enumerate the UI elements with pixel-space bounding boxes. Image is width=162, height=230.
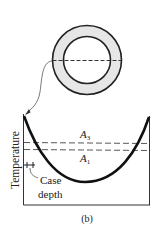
a1-line bbox=[24, 150, 149, 151]
figure-caption: (b) bbox=[81, 213, 93, 225]
case-depth-marker bbox=[24, 162, 38, 178]
leader-arrow bbox=[25, 61, 52, 115]
a3-label: A3 bbox=[79, 128, 91, 142]
a3-line bbox=[24, 143, 149, 144]
ring-cross-section bbox=[53, 26, 122, 95]
temperature-curve bbox=[24, 116, 149, 182]
diagram: A3 A1 Temperature Case depth (b) bbox=[0, 0, 162, 230]
a1-label: A1 bbox=[79, 152, 91, 166]
case-depth-label-line1: Case bbox=[40, 174, 62, 186]
case-depth-label-line2: depth bbox=[38, 188, 63, 200]
y-axis-label: Temperature bbox=[9, 131, 22, 189]
